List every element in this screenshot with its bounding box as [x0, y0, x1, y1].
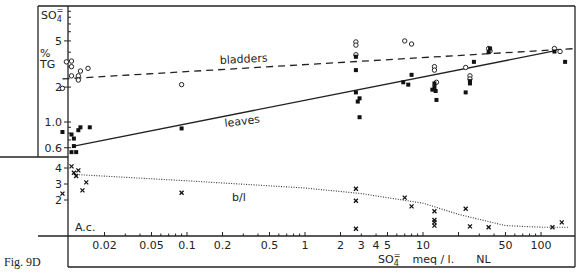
- bl-point: [80, 188, 84, 192]
- leaves-point: [406, 83, 410, 87]
- fit-lines: [62, 49, 576, 228]
- bladders-point: [463, 65, 467, 69]
- bl-point: [464, 207, 468, 211]
- leaves-point: [72, 137, 76, 141]
- bl-point: [354, 187, 358, 191]
- y-axis-unit-tg: TG: [39, 58, 55, 71]
- bladders-point: [76, 78, 80, 82]
- bladders-point: [64, 60, 68, 64]
- x-tick-label: 4: [373, 239, 380, 252]
- bladders-point: [69, 74, 73, 78]
- leaves-point: [88, 125, 92, 129]
- bl-point: [410, 204, 414, 208]
- bl-point: [432, 224, 436, 228]
- bl-point: [432, 209, 436, 213]
- y-axis-title: SO4=: [41, 6, 63, 24]
- figure-label: Fig. 9D: [4, 255, 41, 270]
- leaves-point: [78, 125, 82, 129]
- y-upper-tick-label: 1.0: [45, 116, 63, 129]
- leaves-point: [70, 133, 74, 137]
- y-lower-tick-label: 2: [55, 194, 62, 207]
- bl-label: b/l: [232, 191, 246, 204]
- bladders-point: [558, 49, 562, 53]
- x-tick-label: 3: [358, 239, 365, 252]
- leaves-point: [401, 80, 405, 84]
- data-points: [60, 39, 567, 231]
- bladders-point: [409, 42, 413, 46]
- leaves-point: [487, 50, 491, 54]
- leaves-point: [464, 90, 468, 94]
- leaves-point: [354, 90, 358, 94]
- bladders-point: [86, 66, 90, 70]
- leaves-point: [72, 144, 76, 148]
- bl-point: [84, 180, 88, 184]
- leaves-point: [358, 96, 362, 100]
- leaves-point: [70, 150, 74, 154]
- bladders-point: [403, 39, 407, 43]
- bl-fit-line: [74, 174, 568, 227]
- bl-point: [468, 224, 472, 228]
- leaves-point: [358, 115, 362, 119]
- x-tick-label: 5: [384, 239, 391, 252]
- bl-point: [180, 191, 184, 195]
- leaves-point: [432, 81, 436, 85]
- x-tick-label: 0.2: [214, 239, 232, 252]
- bl-point: [560, 220, 564, 224]
- leaves-point: [432, 85, 436, 89]
- chart-canvas: 0.020.050.10.20.5123451050100521.00.6432…: [0, 0, 582, 277]
- leaves-point: [552, 50, 556, 54]
- bladders-point: [354, 43, 358, 47]
- leaves-point: [434, 89, 438, 93]
- y-upper-tick-label: 5: [55, 35, 62, 48]
- bladders-point: [179, 82, 183, 86]
- bl-point: [354, 227, 358, 231]
- bl-point: [550, 225, 554, 229]
- x-tick-label: 10: [416, 239, 430, 252]
- leaves-point: [468, 81, 472, 85]
- species-label: A.c.: [75, 221, 95, 234]
- bladders-point: [432, 68, 436, 72]
- x-tick-label: 0.05: [139, 239, 164, 252]
- bl-point: [354, 199, 358, 203]
- leaves-point: [410, 73, 414, 77]
- x-tick-label: 1: [302, 239, 309, 252]
- axes: [64, 11, 541, 236]
- bl-point: [76, 168, 80, 172]
- x-tick-label: 0.1: [178, 239, 196, 252]
- bladders-point: [78, 69, 82, 73]
- leaves-point: [434, 98, 438, 102]
- y-lower-tick-label: 3: [55, 178, 62, 191]
- leaves-fit-line: [74, 51, 555, 146]
- bl-point: [70, 164, 74, 168]
- bladders-label: bladders: [219, 51, 268, 66]
- bladders-point: [69, 64, 73, 68]
- x-tick-label: 100: [531, 239, 552, 252]
- bl-point: [74, 174, 78, 178]
- leaves-point: [354, 55, 358, 59]
- x-tick-label: 0.02: [92, 239, 117, 252]
- leaves-point: [563, 60, 567, 64]
- bl-point: [487, 225, 491, 229]
- bladders-fit-line: [62, 49, 576, 79]
- leaves-point: [74, 150, 78, 154]
- bl-point: [403, 196, 407, 200]
- x-tick-label: 50: [498, 239, 512, 252]
- x-tick-label: 0.5: [261, 239, 279, 252]
- leaves-point: [354, 68, 358, 72]
- x-tick-label: 2: [337, 239, 344, 252]
- chart-text: 0.020.050.10.20.5123451050100521.00.6432…: [39, 6, 552, 268]
- leaves-point: [60, 130, 64, 134]
- x-axis-title: SO4=meq / l.NL: [378, 251, 491, 268]
- bl-point: [72, 171, 76, 175]
- y-upper-tick-label: 0.6: [45, 142, 63, 155]
- y-upper-tick-label: 2: [55, 81, 62, 94]
- bladders-point: [69, 59, 73, 63]
- leaves-point: [472, 60, 476, 64]
- y-lower-tick-label: 4: [55, 162, 62, 175]
- leaves-point: [488, 47, 492, 51]
- leaves-point: [180, 126, 184, 130]
